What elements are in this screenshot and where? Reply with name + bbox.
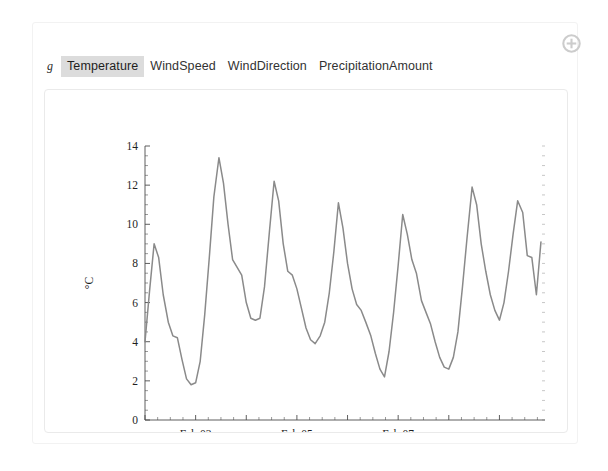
x-tick-label: Feb 03 xyxy=(180,428,212,432)
tab-windspeed[interactable]: WindSpeed xyxy=(144,56,222,77)
chart-frame: 02468101214 Feb 03Feb 05Feb 07 °C xyxy=(44,89,568,433)
y-axis-tick-labels: 02468101214 xyxy=(127,140,139,426)
y-tick-label: 2 xyxy=(132,375,138,387)
tab-winddirection[interactable]: WindDirection xyxy=(222,56,313,77)
x-tick-label: Feb 07 xyxy=(382,428,414,432)
plus-circle-icon xyxy=(561,33,582,54)
chart-axes xyxy=(145,146,545,420)
y-tick-label: 0 xyxy=(132,414,138,426)
y-tick-label: 8 xyxy=(132,257,138,269)
weather-panel-card: g Temperature WindSpeed WindDirection Pr… xyxy=(32,22,578,444)
add-panel-button[interactable] xyxy=(561,33,582,54)
y-axis-title: °C xyxy=(83,277,95,290)
right-axis-dotted xyxy=(542,146,545,420)
tab-temperature[interactable]: Temperature xyxy=(61,56,144,77)
y-tick-label: 14 xyxy=(127,140,139,152)
y-tick-label: 10 xyxy=(127,218,139,230)
temperature-line-chart: 02468101214 Feb 03Feb 05Feb 07 °C xyxy=(45,90,567,432)
temperature-series-line xyxy=(145,158,541,385)
variable-tab-strip: g Temperature WindSpeed WindDirection Pr… xyxy=(43,56,439,76)
y-tick-label: 4 xyxy=(132,336,138,348)
y-tick-label: 6 xyxy=(132,297,138,309)
x-tick-label: Feb 05 xyxy=(281,428,313,432)
y-tick-label: 12 xyxy=(127,179,139,191)
x-axis-tick-labels: Feb 03Feb 05Feb 07 xyxy=(180,428,414,432)
variable-symbol-label: g xyxy=(43,59,61,74)
tab-precipitationamount[interactable]: PrecipitationAmount xyxy=(313,56,439,77)
